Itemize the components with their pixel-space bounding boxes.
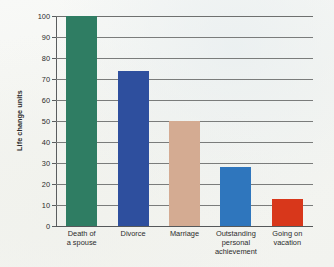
y-tick-label-70: 70	[28, 75, 50, 84]
y-tick-label-50: 50	[28, 117, 50, 126]
x-axis-category-labels: Death ofa spouseDivorceMarriageOutstandi…	[56, 229, 313, 267]
bar-3	[220, 167, 251, 226]
bar-2	[169, 121, 200, 226]
y-tick-label-0: 0	[28, 222, 50, 231]
y-tick-mark-100	[52, 16, 56, 17]
y-tick-mark-30	[52, 163, 56, 164]
y-tick-label-40: 40	[28, 138, 50, 147]
y-tick-mark-80	[52, 58, 56, 59]
y-tick-label-10: 10	[28, 201, 50, 210]
y-tick-mark-0	[52, 226, 56, 227]
x-category-label-line: achievement	[204, 247, 267, 256]
y-tick-label-80: 80	[28, 54, 50, 63]
x-category-label-line: a spouse	[50, 238, 113, 247]
x-category-label-4: Going onvacation	[256, 229, 319, 247]
x-category-label-line: vacation	[256, 238, 319, 247]
y-tick-label-100: 100	[28, 12, 50, 21]
y-tick-label-90: 90	[28, 33, 50, 42]
gridline-0	[56, 226, 313, 227]
y-tick-mark-40	[52, 142, 56, 143]
y-tick-mark-20	[52, 184, 56, 185]
y-axis-title-label: Life change units	[15, 90, 24, 151]
y-tick-label-20: 20	[28, 180, 50, 189]
y-tick-mark-60	[52, 100, 56, 101]
y-tick-label-60: 60	[28, 96, 50, 105]
y-tick-mark-90	[52, 37, 56, 38]
bar-0	[66, 16, 97, 226]
x-category-label-line: Going on	[256, 229, 319, 238]
y-axis-tick-labels: 0102030405060708090100	[24, 16, 50, 226]
bar-4	[272, 199, 303, 226]
bar-1	[118, 71, 149, 226]
chart-page: Life change units 0102030405060708090100…	[0, 0, 334, 267]
y-tick-mark-50	[52, 121, 56, 122]
y-tick-mark-70	[52, 79, 56, 80]
y-tick-label-30: 30	[28, 159, 50, 168]
y-tick-mark-10	[52, 205, 56, 206]
plot-area	[56, 16, 313, 226]
